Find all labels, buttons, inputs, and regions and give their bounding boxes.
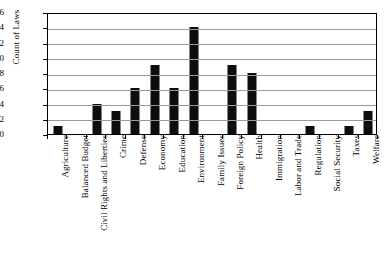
x-axis-tick-label: Taxes [351,135,361,156]
x-axis-tick-label: Regulation [313,135,323,176]
plot-area [47,13,377,135]
gridline [48,75,376,76]
y-axis-title: Count of Laws [11,0,21,97]
x-axis-tick-label: Environment [196,135,206,183]
y-axis-tick-label: 16 [0,8,4,17]
bar-chart: Count of Laws 0246810121416 AgricultureB… [0,0,386,259]
bar [150,65,159,134]
y-axis-tick-label: 14 [0,23,4,32]
y-axis-tick-label: 10 [0,54,4,63]
y-axis-tick-mark [43,74,47,75]
x-axis-labels: AgricultureBalanced BudgetCivil Rights a… [47,135,377,259]
x-axis-tick-label: Welfare [371,135,381,164]
y-axis-tick-label: 0 [0,130,4,139]
x-axis-tick-label: Social Security [332,135,342,191]
y-axis-tick-mark [43,59,47,60]
x-axis-tick-label: Defense [138,135,148,165]
x-axis-tick-label: Agriculture [60,135,70,178]
bar [228,65,237,134]
y-axis-tick-label: 6 [0,84,4,93]
y-axis-tick-label: 2 [0,115,4,124]
y-axis-tick-mark [43,105,47,106]
x-axis-tick-label: Labor and Trade [293,135,303,196]
bar [111,111,120,134]
x-axis-tick-label: Crime [118,135,128,158]
bar [92,104,101,135]
y-axis-tick-mark [43,120,47,121]
bar [247,73,256,134]
x-axis-tick-label: Balanced Budget [80,135,90,198]
gridline [48,90,376,91]
bar [131,88,140,134]
bar [306,126,315,134]
bar [53,126,62,134]
gridline [48,44,376,45]
bar [364,111,373,134]
bar [170,88,179,134]
y-axis-tick-label: 8 [0,69,4,78]
x-axis-tick-label: Immigration [274,135,284,181]
x-axis-tick-label: Civil Rights and Liberties [99,135,109,231]
y-axis-tick-label: 12 [0,39,4,48]
x-axis-tick-label: Family Issues [216,135,226,186]
gridline [48,59,376,60]
x-axis-tick-label: Economy [157,135,167,170]
x-axis-tick-label: Education [177,135,187,172]
bar [344,126,353,134]
y-axis-tick-mark [43,44,47,45]
y-axis-tick-mark [43,89,47,90]
x-axis-tick-label: Health [254,135,264,160]
gridline [48,120,376,121]
y-axis-tick-mark [43,28,47,29]
x-axis-tick-label: Foreign Policy [235,135,245,190]
y-axis-tick-mark [43,13,47,14]
gridline [48,105,376,106]
gridline [48,29,376,30]
y-axis-tick-label: 4 [0,100,4,109]
